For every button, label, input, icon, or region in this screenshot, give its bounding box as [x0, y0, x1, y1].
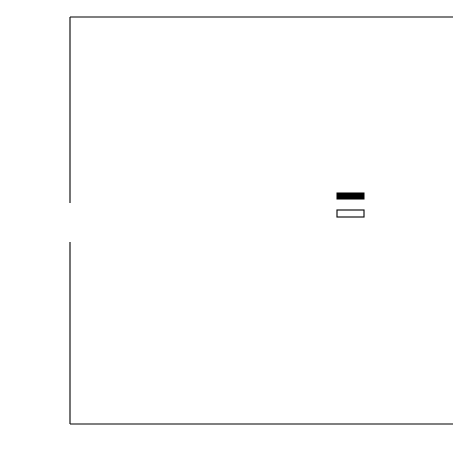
bottom-panel	[70, 242, 453, 424]
legend-swatch-rainfall	[337, 210, 364, 217]
figure-container	[0, 0, 467, 476]
legend-swatch-pan-evaporation	[337, 193, 364, 199]
top-panel	[19, 17, 453, 217]
legend	[337, 193, 364, 217]
figure-svg	[0, 0, 467, 476]
